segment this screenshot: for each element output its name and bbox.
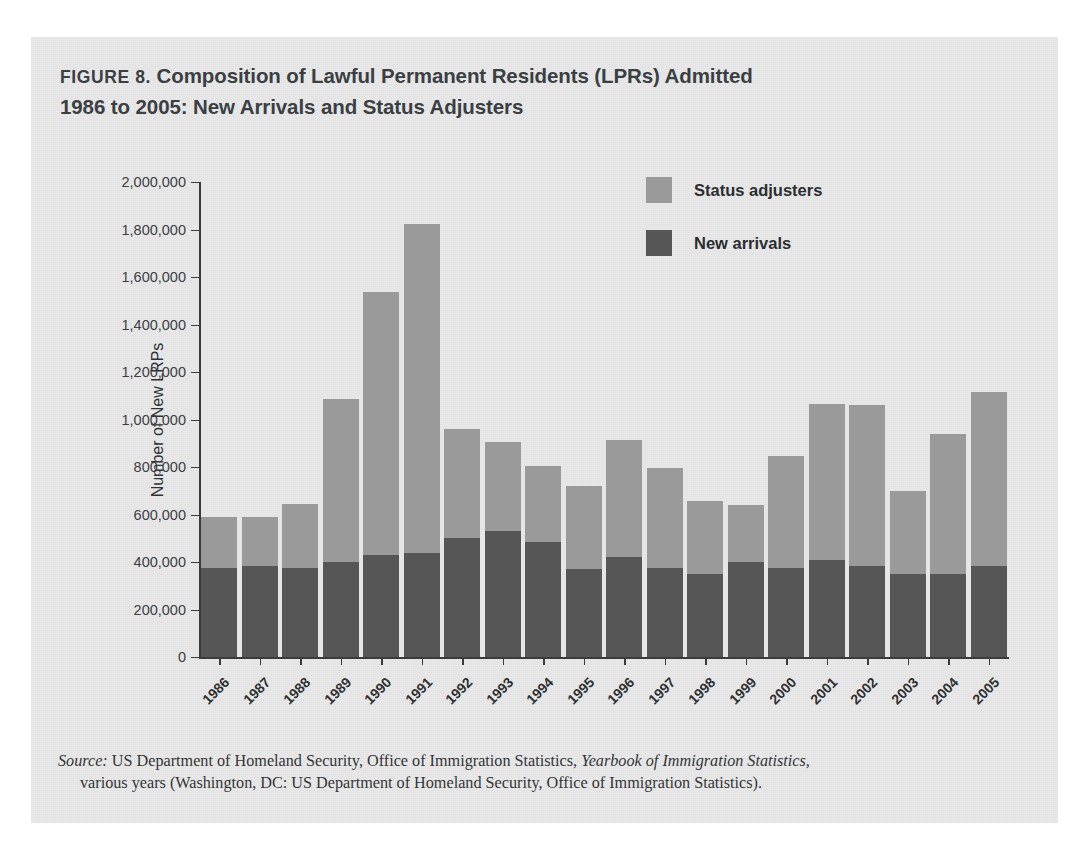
figure-title: FIGURE 8. Composition of Lawful Permanen…	[60, 61, 1020, 121]
figure-title-line1: Composition of Lawful Permanent Resident…	[157, 64, 753, 87]
x-axis-label-2003: 2003	[877, 674, 921, 718]
x-axis-tick	[665, 657, 666, 665]
bar-segment-new-arrivals	[282, 568, 318, 657]
x-axis-label-2005: 2005	[958, 674, 1002, 718]
bar-segment-status-adjusters	[971, 392, 1007, 565]
bar-segment-status-adjusters	[606, 440, 642, 558]
y-axis-tick-label: 1,600,000	[121, 269, 186, 285]
bar-segment-new-arrivals	[363, 555, 399, 657]
x-axis-tick	[543, 657, 544, 665]
bar-segment-new-arrivals	[687, 574, 723, 657]
x-axis-tick	[989, 657, 990, 665]
x-axis-label-2002: 2002	[837, 674, 881, 718]
bar-segment-new-arrivals	[809, 560, 845, 657]
x-axis-line	[199, 657, 1009, 659]
source-text-part2: various years (Washington, DC: US Depart…	[58, 773, 1033, 795]
y-axis-tick	[191, 325, 199, 326]
bar-chart-plot-area: Number of New LRPs 0200,000400,000600,00…	[199, 182, 1009, 657]
y-axis-tick	[191, 467, 199, 468]
bar-segment-status-adjusters	[647, 468, 683, 568]
y-axis-tick-label: 1,400,000	[121, 317, 186, 333]
bar-2005	[971, 392, 1007, 657]
bar-segment-new-arrivals	[890, 574, 926, 657]
bar-segment-status-adjusters	[687, 501, 723, 573]
y-axis-tick	[191, 182, 199, 183]
x-axis-label-1994: 1994	[513, 674, 557, 718]
bar-2001	[809, 404, 845, 657]
bar-segment-new-arrivals	[728, 562, 764, 657]
x-axis-label-1987: 1987	[229, 674, 273, 718]
x-axis-tick	[341, 657, 342, 665]
source-note: Source: US Department of Homeland Securi…	[58, 751, 1033, 794]
bar-segment-status-adjusters	[728, 505, 764, 562]
y-axis-tick	[191, 420, 199, 421]
bar-1995	[566, 486, 602, 657]
bar-1992	[444, 429, 480, 657]
y-axis-tick-label: 600,000	[134, 507, 186, 523]
bar-segment-new-arrivals	[768, 568, 804, 657]
bar-1994	[525, 466, 561, 657]
y-axis-tick-label: 1,200,000	[121, 364, 186, 380]
bar-segment-status-adjusters	[444, 429, 480, 538]
y-axis-tick	[191, 562, 199, 563]
x-axis-label-2000: 2000	[756, 674, 800, 718]
x-axis-label-1991: 1991	[391, 674, 435, 718]
bar-1991	[404, 224, 440, 657]
bar-2002	[849, 405, 885, 657]
y-axis-tick	[191, 372, 199, 373]
bar-segment-new-arrivals	[485, 531, 521, 657]
x-axis-label-2001: 2001	[796, 674, 840, 718]
bar-1989	[323, 399, 359, 657]
source-text-part1: US Department of Homeland Security, Offi…	[108, 752, 581, 770]
bar-segment-new-arrivals	[201, 568, 237, 657]
x-axis-tick	[705, 657, 706, 665]
bar-1990	[363, 292, 399, 657]
x-axis-label-1997: 1997	[634, 674, 678, 718]
x-axis-tick	[462, 657, 463, 665]
figure-title-line2: 1986 to 2005: New Arrivals and Status Ad…	[60, 95, 523, 118]
source-lead: Source:	[58, 752, 108, 770]
bar-segment-status-adjusters	[849, 405, 885, 565]
bar-segment-status-adjusters	[485, 442, 521, 531]
bar-1987	[242, 517, 278, 657]
x-axis-tick	[786, 657, 787, 665]
y-axis-tick-label: 200,000	[134, 602, 186, 618]
x-axis-tick	[219, 657, 220, 665]
bar-segment-new-arrivals	[971, 566, 1007, 657]
x-axis-label-1998: 1998	[675, 674, 719, 718]
x-axis-label-1989: 1989	[310, 674, 354, 718]
x-axis-tick	[624, 657, 625, 665]
x-axis-tick	[422, 657, 423, 665]
y-axis-tick	[191, 657, 199, 658]
figure-number-label: FIGURE 8.	[60, 67, 151, 87]
bar-segment-new-arrivals	[930, 574, 966, 657]
bar-segment-status-adjusters	[525, 466, 561, 542]
y-axis-tick	[191, 277, 199, 278]
x-axis-tick	[827, 657, 828, 665]
x-axis-label-1992: 1992	[432, 674, 476, 718]
bar-segment-status-adjusters	[323, 399, 359, 562]
x-axis-label-1990: 1990	[351, 674, 395, 718]
bar-segment-status-adjusters	[768, 456, 804, 568]
bar-1996	[606, 440, 642, 657]
bar-segment-new-arrivals	[525, 542, 561, 657]
x-axis-label-1988: 1988	[270, 674, 314, 718]
bar-segment-status-adjusters	[890, 491, 926, 574]
y-axis-tick	[191, 610, 199, 611]
x-axis-tick	[381, 657, 382, 665]
x-axis-tick	[908, 657, 909, 665]
bar-segment-status-adjusters	[363, 292, 399, 554]
bar-1997	[647, 468, 683, 657]
y-axis-tick-label: 1,800,000	[121, 222, 186, 238]
bar-2004	[930, 434, 966, 657]
x-axis-tick	[746, 657, 747, 665]
source-italic-title: Yearbook of Immigration Statistics,	[581, 752, 810, 770]
x-axis-tick	[584, 657, 585, 665]
bar-1998	[687, 501, 723, 657]
bar-segment-new-arrivals	[323, 562, 359, 657]
x-axis-tick	[867, 657, 868, 665]
x-axis-label-1986: 1986	[189, 674, 233, 718]
y-axis-tick	[191, 515, 199, 516]
y-axis-tick-label: 400,000	[134, 554, 186, 570]
bar-segment-status-adjusters	[201, 517, 237, 568]
